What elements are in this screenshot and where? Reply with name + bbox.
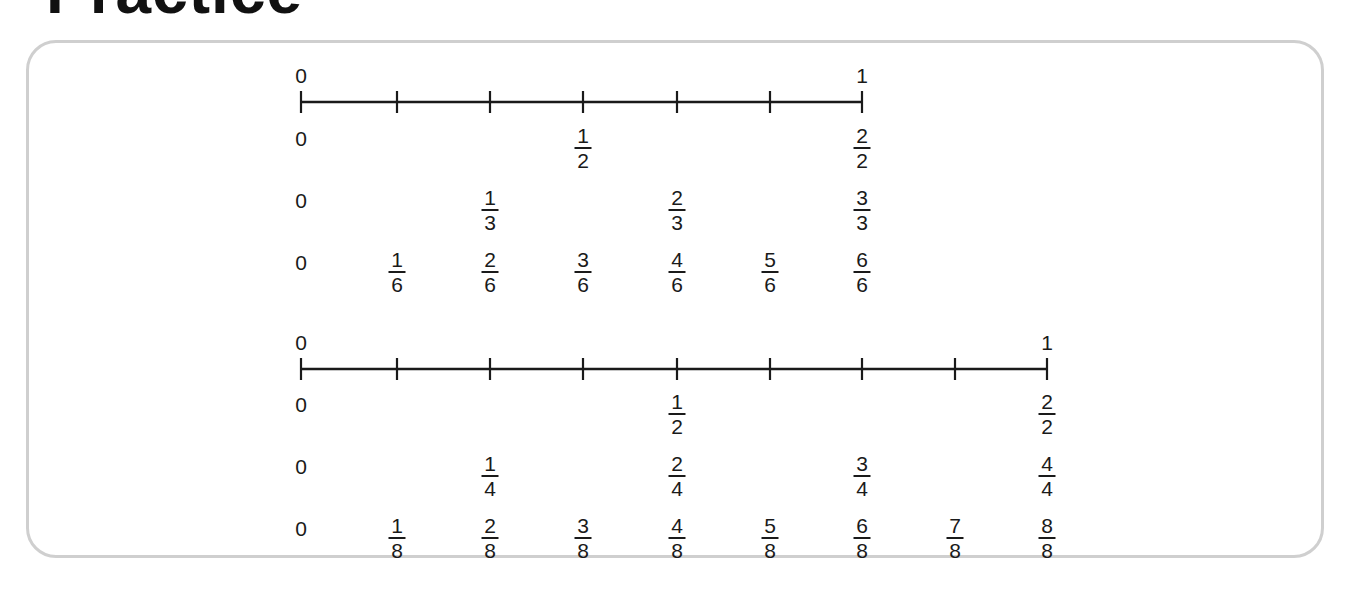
numerator: 6 <box>855 250 869 270</box>
zero-label: 0 <box>295 190 307 211</box>
numerator: 5 <box>763 250 777 270</box>
fraction-label: 16 <box>389 250 406 295</box>
fraction-label: 28 <box>482 516 499 561</box>
fraction-label: 14 <box>482 454 499 499</box>
denominator: 4 <box>1040 479 1054 499</box>
fraction-label: 44 <box>1039 454 1056 499</box>
numerator: 3 <box>576 516 590 536</box>
numerator: 2 <box>855 126 869 146</box>
fraction-label: 48 <box>669 516 686 561</box>
numerator: 8 <box>1040 516 1054 536</box>
numerator: 4 <box>1040 454 1054 474</box>
denominator: 3 <box>855 213 869 233</box>
fraction-label: 34 <box>854 454 871 499</box>
denominator: 3 <box>483 213 497 233</box>
denominator: 6 <box>390 275 404 295</box>
fraction-label: 26 <box>482 250 499 295</box>
line-sixths <box>301 91 862 113</box>
fraction-label: 24 <box>669 454 686 499</box>
fraction-label: 58 <box>762 516 779 561</box>
end-label: 1 <box>856 65 868 86</box>
denominator: 6 <box>576 275 590 295</box>
fraction-label: 46 <box>669 250 686 295</box>
denominator: 8 <box>1040 541 1054 561</box>
denominator: 8 <box>576 541 590 561</box>
zero-label: 0 <box>295 518 307 539</box>
numerator: 2 <box>483 516 497 536</box>
numerator: 2 <box>1040 392 1054 412</box>
start-label: 0 <box>295 332 307 353</box>
numerator: 2 <box>483 250 497 270</box>
denominator: 6 <box>763 275 777 295</box>
denominator: 3 <box>670 213 684 233</box>
zero-label: 0 <box>295 128 307 149</box>
numerator: 5 <box>763 516 777 536</box>
fraction-label: 38 <box>575 516 592 561</box>
numerator: 2 <box>670 188 684 208</box>
denominator: 8 <box>948 541 962 561</box>
fraction-label: 78 <box>947 516 964 561</box>
denominator: 8 <box>483 541 497 561</box>
numerator: 4 <box>670 516 684 536</box>
numerator: 3 <box>855 454 869 474</box>
fraction-label: 23 <box>669 188 686 233</box>
number-lines-svg <box>0 0 1352 599</box>
fraction-label: 22 <box>1039 392 1056 437</box>
zero-label: 0 <box>295 394 307 415</box>
denominator: 6 <box>483 275 497 295</box>
zero-label: 0 <box>295 456 307 477</box>
numerator: 1 <box>576 126 590 146</box>
fraction-label: 12 <box>575 126 592 171</box>
fraction-label: 18 <box>389 516 406 561</box>
fraction-label: 22 <box>854 126 871 171</box>
fraction-label: 36 <box>575 250 592 295</box>
denominator: 8 <box>855 541 869 561</box>
numerator: 1 <box>483 188 497 208</box>
denominator: 6 <box>855 275 869 295</box>
fraction-label: 33 <box>854 188 871 233</box>
numerator: 3 <box>576 250 590 270</box>
denominator: 8 <box>670 541 684 561</box>
denominator: 4 <box>483 479 497 499</box>
numerator: 4 <box>670 250 684 270</box>
denominator: 2 <box>576 151 590 171</box>
numerator: 1 <box>670 392 684 412</box>
denominator: 6 <box>670 275 684 295</box>
numerator: 2 <box>670 454 684 474</box>
fraction-label: 12 <box>669 392 686 437</box>
fraction-label: 13 <box>482 188 499 233</box>
numerator: 1 <box>390 516 404 536</box>
line-eighths <box>301 358 1047 380</box>
fraction-label: 68 <box>854 516 871 561</box>
zero-label: 0 <box>295 252 307 273</box>
numerator: 1 <box>483 454 497 474</box>
numerator: 7 <box>948 516 962 536</box>
end-label: 1 <box>1041 332 1053 353</box>
denominator: 8 <box>763 541 777 561</box>
denominator: 2 <box>855 151 869 171</box>
fraction-label: 66 <box>854 250 871 295</box>
denominator: 4 <box>670 479 684 499</box>
denominator: 2 <box>1040 417 1054 437</box>
denominator: 2 <box>670 417 684 437</box>
numerator: 1 <box>390 250 404 270</box>
denominator: 4 <box>855 479 869 499</box>
numerator: 3 <box>855 188 869 208</box>
fraction-label: 56 <box>762 250 779 295</box>
numerator: 6 <box>855 516 869 536</box>
denominator: 8 <box>390 541 404 561</box>
start-label: 0 <box>295 65 307 86</box>
fraction-label: 88 <box>1039 516 1056 561</box>
